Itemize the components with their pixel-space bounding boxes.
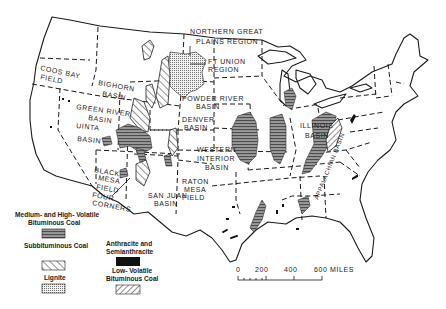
label-raton-2: MESA (184, 186, 206, 193)
label-ft-union-2: REGION (208, 66, 239, 73)
svg-text:BASIN: BASIN (77, 135, 102, 144)
svg-text:ILLINOIS: ILLINOIS (300, 122, 334, 129)
svg-text:Semianthracite: Semianthracite (106, 248, 154, 255)
svg-text:BASIN: BASIN (154, 200, 178, 207)
svg-text:INTERIOR: INTERIOR (197, 155, 235, 162)
legend-swatch-low-volatile (116, 285, 140, 294)
svg-text:Bituminous Coal: Bituminous Coal (106, 275, 159, 282)
label-northern-great-plains-1: NORTHERN GREAT (190, 28, 264, 35)
label-raton-1: RATON (182, 178, 209, 185)
label-raton-3: FIELD (182, 194, 205, 201)
svg-text:UINTA: UINTA (76, 122, 100, 131)
scale-tick-400: 400 (284, 266, 297, 273)
svg-text:400: 400 (284, 266, 297, 273)
svg-text:BASIN: BASIN (102, 90, 127, 101)
lake-erie (314, 94, 346, 108)
svg-text:BASIN: BASIN (184, 124, 208, 131)
label-powder-river-1: POWDER RIVER (182, 95, 244, 102)
label-northern-great-plains-2: PLAINS REGION (196, 38, 258, 45)
scale-tick-200: 200 (255, 266, 268, 273)
legend-med-high-volatile-2: Bituminous Coal (28, 219, 81, 226)
legend-lignite: Lignite (44, 274, 66, 282)
label-uinta-1: UINTA (76, 122, 100, 131)
lake-huron (296, 70, 316, 94)
svg-text:BASIN: BASIN (305, 132, 329, 139)
svg-text:POWDER RIVER: POWDER RIVER (182, 95, 244, 102)
svg-text:RATON: RATON (182, 178, 209, 185)
anthracite-areas (350, 114, 358, 180)
legend-anthracite-1: Anthracite and (106, 240, 152, 247)
label-western-interior-3: BASIN (205, 164, 229, 171)
legend-med-high-volatile-1: Medium- and High- Volatile (15, 211, 99, 219)
legend-subbituminous: Subbituminous Coal (24, 242, 88, 249)
coal-fields-map: NORTHERN GREAT PLAINS REGION FT UNION RE… (0, 0, 446, 309)
label-san-juan-2: BASIN (154, 200, 178, 207)
svg-text:MESA: MESA (184, 186, 206, 193)
legend-swatch-anthracite (116, 257, 140, 266)
legend-swatch-bituminous (42, 229, 65, 238)
svg-text:Bituminous Coal: Bituminous Coal (28, 219, 81, 226)
svg-text:Lignite: Lignite (44, 274, 66, 282)
scale-bar: 0 200 400 600 MILES (236, 266, 354, 280)
svg-text:DENVER: DENVER (182, 116, 215, 123)
svg-text:Low- Volatile: Low- Volatile (112, 267, 153, 274)
svg-text:REGION: REGION (208, 66, 239, 73)
scale-tick-600: 600 MILES (314, 266, 354, 273)
label-denver-1: DENVER (182, 116, 215, 123)
label-denver-2: BASIN (184, 124, 208, 131)
label-ft-union-1: FT UNION (208, 58, 246, 65)
label-western-interior-2: INTERIOR (197, 155, 235, 162)
northern-great-plains-lignite (168, 52, 206, 98)
legend-swatch-subbituminous (42, 261, 65, 270)
svg-text:600 MILES: 600 MILES (314, 266, 354, 273)
svg-text:BASIN: BASIN (205, 164, 229, 171)
label-illinois-1: ILLINOIS (300, 122, 334, 129)
legend-anthracite-2: Semianthracite (106, 248, 154, 255)
svg-text:BASIN: BASIN (196, 103, 220, 110)
svg-text:Subbituminous Coal: Subbituminous Coal (24, 242, 88, 249)
label-western-interior-1: WESTERN (197, 146, 236, 153)
scale-tick-0: 0 (236, 266, 241, 273)
label-powder-river-2: BASIN (196, 103, 220, 110)
label-bighorn-2: BASIN (102, 90, 127, 101)
svg-text:Medium- and High- Volatile: Medium- and High- Volatile (15, 211, 99, 219)
svg-text:FIELD: FIELD (182, 194, 205, 201)
legend-low-volatile-2: Bituminous Coal (106, 275, 159, 282)
lake-superior (258, 50, 296, 64)
svg-text:200: 200 (255, 266, 268, 273)
svg-text:NORTHERN GREAT: NORTHERN GREAT (190, 28, 264, 35)
legend-swatch-lignite (42, 284, 65, 293)
legend-low-volatile-1: Low- Volatile (112, 267, 153, 274)
label-illinois-2: BASIN (305, 132, 329, 139)
svg-text:PLAINS REGION: PLAINS REGION (196, 38, 258, 45)
svg-text:0: 0 (236, 266, 241, 273)
label-uinta-2: BASIN (77, 135, 102, 144)
svg-text:Anthracite and: Anthracite and (106, 240, 152, 247)
legend: Medium- and High- Volatile Bituminous Co… (15, 211, 159, 294)
svg-text:WESTERN: WESTERN (197, 146, 236, 153)
svg-text:FT UNION: FT UNION (208, 58, 246, 65)
